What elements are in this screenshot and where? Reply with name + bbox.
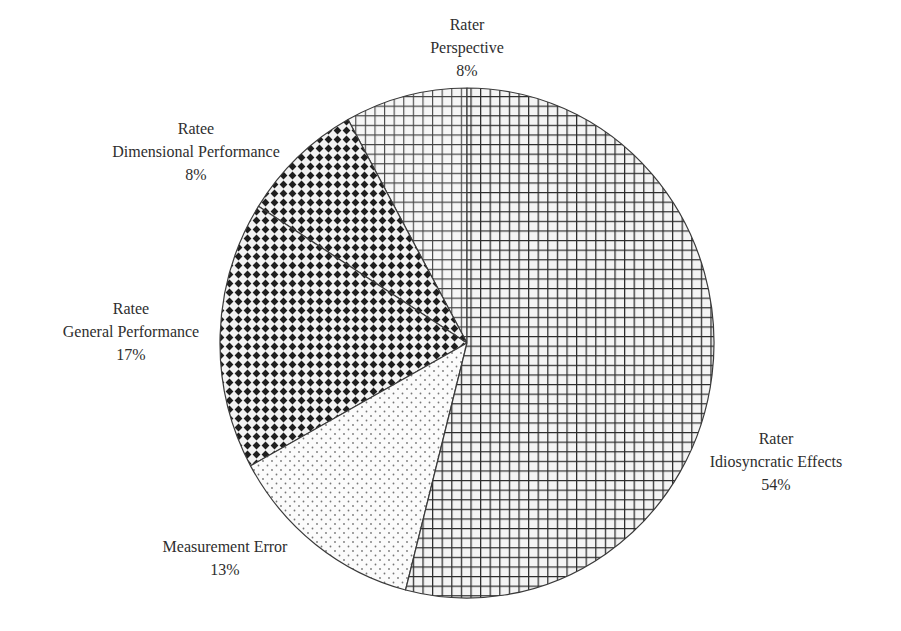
label-percent: 17% [63,343,199,366]
label-rater-perspective: Rater Perspective 8% [430,13,504,82]
label-ratee-dimensional-performance: Ratee Dimensional Performance 8% [112,117,280,186]
label-line1: Rater [430,13,504,36]
label-line2: General Performance [63,320,199,343]
label-rater-idiosyncratic-effects: Rater Idiosyncratic Effects 54% [710,427,843,496]
label-line2: Dimensional Performance [112,140,280,163]
label-line2: Measurement Error [163,535,288,558]
label-line1: Rater [710,427,843,450]
label-percent: 54% [710,473,843,496]
label-line2: Perspective [430,36,504,59]
label-ratee-general-performance: Ratee General Performance 17% [63,297,199,366]
label-percent: 8% [112,163,280,186]
label-line1: Ratee [63,297,199,320]
label-line1: Ratee [112,117,280,140]
label-line2: Idiosyncratic Effects [710,450,843,473]
label-measurement-error: Measurement Error 13% [163,535,288,581]
pie-slices [220,88,714,598]
label-percent: 13% [163,558,288,581]
label-percent: 8% [430,59,504,82]
